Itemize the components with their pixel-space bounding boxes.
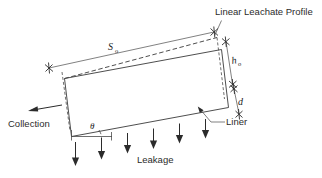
dimension-d: d [231,84,245,120]
leakage-label: Leakage [137,154,173,165]
leakage-arrow [202,119,209,139]
dimension-d-label: d [238,96,244,107]
dimension-h0-label: h [231,54,237,66]
slab-right-edge [222,50,229,108]
leakage-arrow [124,133,131,154]
slab-top-edge [65,50,222,79]
collection-callout: Collection [8,105,62,129]
slab-left-edge [65,79,72,137]
profile-dashed-line [65,38,218,79]
left-extension-dashed [62,72,70,131]
dimension-S0-subscript: o [115,47,118,54]
linear-leachate-profile-label: Linear Leachate Profile [215,6,313,17]
dimension-S0-label: S [108,41,113,52]
angle-theta: θ [72,121,113,141]
dimension-h0-subscript: o [238,60,242,67]
dimension-S0-line [49,32,214,68]
collection-label: Collection [8,118,50,129]
linear-leachate-profile-leader [215,21,222,37]
leachate-profile-line [65,38,225,100]
figure-canvas: S o h o [0,0,322,178]
liner-label: Liner [226,116,247,127]
dimension-S0-tick-left [45,63,53,74]
leakage-arrow [176,124,183,144]
collection-arrow-head [28,106,38,111]
leakage-arrow [98,138,105,160]
leakage-arrow [150,129,157,150]
theta-arc [99,130,101,134]
angle-theta-label: θ [90,121,95,131]
linear-leachate-profile-callout: Linear Leachate Profile [215,6,313,36]
dimension-h0-tick-top [222,37,230,48]
leakage-arrow [72,142,79,166]
